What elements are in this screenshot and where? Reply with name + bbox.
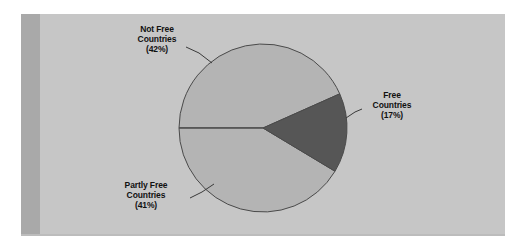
pie-chart-plot (0, 0, 521, 249)
pie-label-partly-free: Partly Free Countries (41%) (104, 180, 188, 210)
pie-label-not-free: Not Free Countries (42%) (118, 24, 196, 54)
pie-label-partly-free-line2: Countries (104, 190, 188, 200)
pie-label-partly-free-value: (41%) (104, 200, 188, 210)
screenshot-canvas: Not Free Countries (42%) Free Countries … (0, 0, 521, 249)
pie-label-free-line1: Free (356, 90, 428, 100)
pie-label-not-free-line2: Countries (118, 34, 196, 44)
pie-label-not-free-value: (42%) (118, 44, 196, 54)
pie-label-free-value: (17%) (356, 110, 428, 120)
pie-label-free: Free Countries (17%) (356, 90, 428, 120)
pie-label-partly-free-line1: Partly Free (104, 180, 188, 190)
pie-label-not-free-line1: Not Free (118, 24, 196, 34)
pie-label-free-line2: Countries (356, 100, 428, 110)
